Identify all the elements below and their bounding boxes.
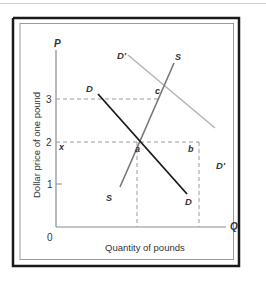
tick-label-3: 3 — [46, 94, 52, 105]
y-axis-title: Dollar price of one pound — [31, 92, 42, 198]
supply-demand-diagram: P Q 0 3 2 1 Dollar price of one pound Qu… — [0, 0, 266, 283]
demand-label-top: D — [86, 83, 93, 94]
demand-curve — [98, 94, 187, 194]
demand-label-bottom: D — [185, 196, 192, 207]
point-x-label: x — [58, 142, 65, 152]
point-a-label: a — [135, 144, 140, 154]
demand-new-label-bottom: D' — [216, 160, 226, 171]
demand-curve-new — [128, 55, 215, 128]
tick-label-1: 1 — [47, 179, 53, 190]
supply-label-bottom: S — [106, 193, 112, 203]
point-c-label: c — [155, 86, 160, 96]
supply-label-top: S — [175, 52, 181, 62]
point-b-label: b — [188, 144, 194, 154]
y-axis-symbol: P — [54, 38, 61, 49]
x-axis-title: Quantity of pounds — [105, 242, 185, 253]
demand-new-label-top: D' — [117, 50, 127, 61]
origin-label: 0 — [47, 232, 53, 243]
supply-curve — [120, 63, 174, 187]
tick-label-2: 2 — [46, 137, 52, 148]
x-axis-symbol: Q — [230, 221, 238, 232]
